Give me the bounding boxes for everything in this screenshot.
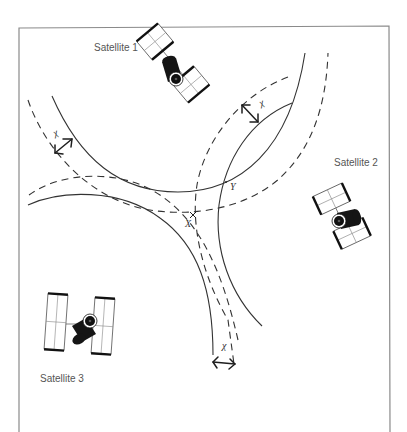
satellite-3-label: Satellite 3 [40, 373, 84, 384]
satellite-2-label: Satellite 2 [334, 157, 378, 168]
chi-label-satellite-3: χ [222, 340, 226, 351]
intersection-point-y [225, 181, 227, 183]
point-x-label: X [185, 218, 191, 229]
satellite-2-dashed-ring [195, 77, 288, 364]
chi-arrow-satellite-1 [55, 139, 72, 154]
diagram-canvas [0, 0, 407, 432]
satellite-2-range-rings [195, 77, 292, 364]
satellite-ranging-diagram: Satellite 1 Satellite 2 Satellite 3 X Y … [0, 0, 407, 432]
chi-arrow-satellite-3 [213, 357, 235, 369]
chi-arrow-satellite-2 [242, 105, 258, 122]
satellite-1-label: Satellite 1 [94, 42, 138, 53]
point-y-label: Y [230, 181, 236, 192]
satellite-1-body [161, 54, 183, 86]
satellite-2-solid-ring [218, 103, 292, 326]
